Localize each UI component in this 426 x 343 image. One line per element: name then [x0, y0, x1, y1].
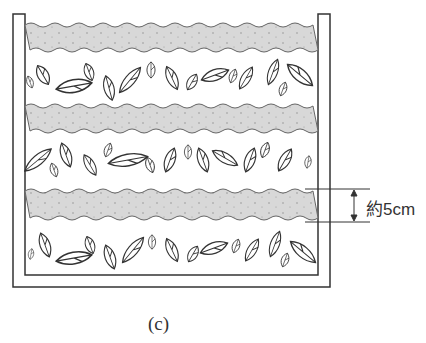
soil-layer: [25, 104, 318, 133]
dimension-label: 約5cm: [366, 195, 415, 220]
soil-layer: [25, 23, 318, 52]
figure-caption: (c): [148, 313, 169, 335]
leaf-layer: [25, 58, 316, 102]
compost-layer-diagram: [0, 0, 426, 343]
leaf-layer: [22, 141, 312, 178]
leaf-layer: [27, 230, 318, 271]
soil-layer: [25, 189, 318, 220]
